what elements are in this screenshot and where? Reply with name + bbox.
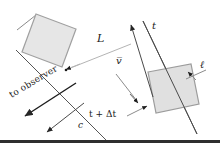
label-light-speed-c: c	[78, 121, 83, 130]
label-length-ell: ℓ	[200, 60, 204, 70]
delta-t-pointer-arrow	[116, 74, 137, 101]
object-at-time-t	[148, 64, 199, 113]
wavefront-intersection-dot	[65, 69, 68, 72]
time-label-arrow	[127, 106, 147, 116]
label-time-t-plus-delta-t: t + Δt	[89, 110, 116, 119]
object-at-time-t-plus-delta-t	[22, 14, 76, 67]
label-time-t: t	[152, 21, 156, 31]
to-observer-arrow	[25, 83, 76, 116]
length-L-left-arrowhead	[66, 64, 80, 70]
delta-t-pointer-arrowhead	[130, 94, 138, 103]
figure-canvas: L t ℓ v̅ t + Δt c to observer	[0, 0, 220, 143]
diagram-svg	[0, 0, 220, 143]
figure-bottom-border	[0, 140, 220, 143]
label-length-L: L	[97, 33, 104, 44]
label-velocity-vector: v̅	[116, 56, 122, 66]
